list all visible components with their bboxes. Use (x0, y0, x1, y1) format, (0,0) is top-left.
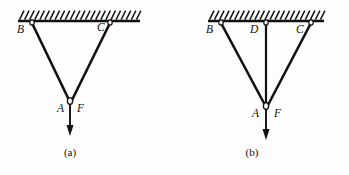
anchor-ring-c (108, 20, 112, 25)
hatch-mark (255, 11, 260, 20)
hatch-mark (50, 11, 55, 20)
ceiling-hatching-a (20, 11, 141, 20)
hatch-mark (290, 11, 295, 20)
hatch-mark (25, 11, 30, 20)
hatch-mark (265, 11, 270, 20)
apex-ring-a (67, 98, 72, 105)
hatch-mark (91, 11, 96, 20)
hatch-mark (215, 11, 220, 20)
hatch-mark (300, 11, 305, 20)
hatch-mark (315, 11, 320, 20)
node-label-b: B (17, 23, 24, 35)
hatch-mark (260, 11, 265, 20)
hatch-mark (285, 11, 290, 20)
hatch-mark (220, 11, 225, 20)
hatch-mark (106, 11, 111, 20)
rope-b (32, 23, 69, 100)
hatch-mark (210, 11, 215, 20)
node-label-d: D (249, 23, 259, 35)
anchor-ring-b (219, 20, 223, 25)
hatch-mark (55, 11, 60, 20)
rope-b (221, 23, 265, 105)
diagram-panel-a: BCAF (a) (0, 0, 174, 175)
hatch-mark (131, 11, 136, 20)
apex-ring-a (263, 103, 268, 110)
hatch-mark (240, 11, 245, 20)
hatch-mark (60, 11, 64, 20)
diagram-panel-b: BDCAF (b) (174, 0, 349, 175)
force-label-f: F (273, 107, 282, 119)
hatch-mark (116, 11, 121, 20)
hatch-mark (65, 11, 70, 20)
hatch-mark (320, 11, 325, 20)
force-arrow-a (67, 104, 74, 136)
label-group-a: BCAF (17, 21, 105, 114)
hatch-mark (75, 11, 80, 20)
node-label-a: A (251, 107, 260, 119)
hatch-mark (126, 11, 131, 20)
hatch-mark (295, 11, 300, 20)
hatch-mark (86, 11, 91, 20)
hatch-mark (20, 11, 25, 20)
hatch-mark (245, 11, 250, 20)
hatch-mark (45, 11, 50, 20)
hatch-mark (70, 11, 75, 20)
panel-caption-a: (a) (64, 146, 77, 159)
hatch-mark (30, 11, 35, 20)
figure-root: BCAF (a) BDCAF (b) (0, 0, 349, 175)
hatch-mark (225, 11, 230, 20)
force-arrow-head (263, 129, 270, 140)
node-label-b: B (206, 23, 213, 35)
hatch-mark (35, 11, 40, 20)
node-label-c: C (296, 23, 304, 35)
node-label-c: C (97, 21, 105, 33)
rope-group-a (32, 23, 110, 100)
hatch-mark (305, 11, 310, 20)
rope-c (268, 23, 311, 105)
force-arrow-b (263, 109, 270, 140)
force-label-f: F (76, 102, 85, 114)
panel-caption-b: (b) (246, 146, 259, 159)
anchor-ring-d (264, 20, 268, 25)
anchor-ring-b (30, 20, 34, 25)
hatch-mark (136, 11, 141, 20)
hatch-mark (275, 11, 280, 20)
hatch-mark (250, 11, 255, 20)
hatch-mark (270, 11, 275, 20)
rope-c (72, 23, 110, 100)
anchor-ring-c (309, 20, 313, 25)
hatch-mark (81, 11, 86, 20)
ceiling-hatching-b (210, 11, 325, 20)
hatch-mark (111, 11, 116, 20)
hatch-mark (96, 11, 101, 20)
label-group-b: BDCAF (206, 23, 304, 119)
node-label-a: A (56, 102, 65, 114)
hatch-mark (280, 11, 285, 20)
rope-group-b (221, 23, 311, 105)
force-arrow-head (67, 125, 74, 136)
hatch-mark (101, 11, 106, 20)
ceiling-a (18, 11, 141, 21)
hatch-mark (310, 11, 315, 20)
hatch-mark (235, 11, 240, 20)
hatch-mark (121, 11, 126, 20)
hatch-mark (230, 11, 235, 20)
hatch-mark (40, 11, 45, 20)
